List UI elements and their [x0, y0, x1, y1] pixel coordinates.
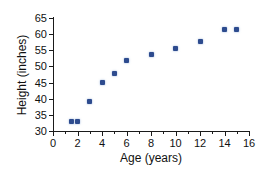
- data-point: [173, 46, 178, 51]
- data-point: [222, 27, 227, 32]
- x-tick-minor: [114, 131, 115, 134]
- data-point: [69, 119, 74, 124]
- x-tick-label: 6: [123, 138, 129, 149]
- scatter-chart: 3035404550556065 0246810121416 Height (i…: [0, 0, 271, 172]
- y-tick: [49, 50, 54, 51]
- y-axis-title: Height (inches): [16, 15, 28, 135]
- y-tick: [49, 18, 54, 19]
- y-tick: [49, 34, 54, 35]
- plot-area: 3035404550556065 0246810121416: [53, 18, 249, 131]
- data-point: [87, 99, 92, 104]
- data-point: [124, 58, 129, 63]
- x-tick-label: 2: [74, 138, 80, 149]
- x-tick-label: 0: [50, 138, 56, 149]
- x-tick: [102, 131, 103, 136]
- y-tick-label: 50: [35, 61, 47, 72]
- y-tick-label: 55: [35, 45, 47, 56]
- y-tick-label: 45: [35, 77, 47, 88]
- x-tick-minor: [163, 131, 164, 134]
- x-tick-minor: [139, 131, 140, 134]
- y-tick: [49, 66, 54, 67]
- y-tick-label: 35: [35, 109, 47, 120]
- y-tick-label: 60: [35, 29, 47, 40]
- x-tick: [225, 131, 226, 136]
- x-tick-minor: [188, 131, 189, 134]
- data-point: [149, 52, 154, 57]
- data-point: [75, 119, 80, 124]
- x-tick: [127, 131, 128, 136]
- x-tick-label: 14: [218, 138, 230, 149]
- x-tick-label: 8: [148, 138, 154, 149]
- y-axis-title-wrap: Height (inches): [8, 18, 22, 131]
- x-axis-title: Age (years): [53, 152, 249, 164]
- data-point: [198, 39, 203, 44]
- x-tick: [151, 131, 152, 136]
- x-tick-label: 10: [169, 138, 181, 149]
- data-point: [234, 27, 239, 32]
- x-tick-label: 12: [194, 138, 206, 149]
- x-tick-minor: [65, 131, 66, 134]
- y-tick-label: 40: [35, 93, 47, 104]
- data-point: [112, 71, 117, 76]
- y-tick-label: 65: [35, 13, 47, 24]
- x-tick: [249, 131, 250, 136]
- x-tick-minor: [212, 131, 213, 134]
- x-tick-minor: [90, 131, 91, 134]
- y-tick: [49, 99, 54, 100]
- x-tick: [176, 131, 177, 136]
- y-tick-label: 30: [35, 126, 47, 137]
- x-tick: [53, 131, 54, 136]
- y-tick: [49, 83, 54, 84]
- y-tick: [49, 115, 54, 116]
- x-tick-minor: [237, 131, 238, 134]
- x-tick-label: 4: [99, 138, 105, 149]
- data-point: [100, 80, 105, 85]
- x-tick: [200, 131, 201, 136]
- x-tick-label: 16: [243, 138, 255, 149]
- x-tick: [78, 131, 79, 136]
